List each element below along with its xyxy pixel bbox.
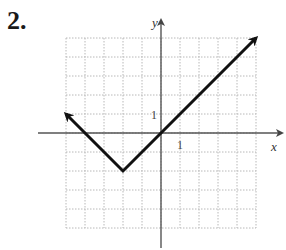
graph: yx11 [0, 0, 286, 250]
x-tick-label: 1 [177, 138, 183, 152]
y-tick-label: 1 [151, 108, 157, 122]
x-axis-label: x [270, 139, 277, 154]
y-axis-label: y [150, 15, 158, 30]
start-arrow [66, 114, 123, 171]
